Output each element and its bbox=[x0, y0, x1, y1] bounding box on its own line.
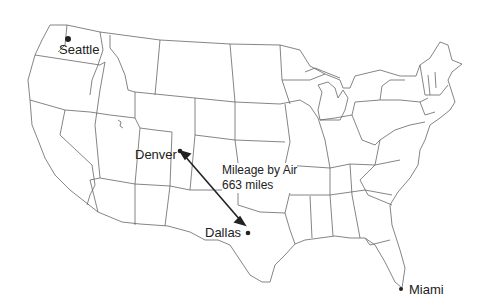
miami-marker bbox=[399, 287, 403, 291]
route-annotation: Mileage by Air 663 miles bbox=[222, 163, 297, 193]
city-label-dallas: Dallas bbox=[205, 226, 241, 239]
city-label-miami: Miami bbox=[409, 283, 444, 296]
denver-marker bbox=[178, 149, 183, 154]
route-label-title: Mileage by Air bbox=[222, 163, 297, 178]
city-label-seattle: Seattle bbox=[59, 43, 99, 56]
dallas-marker bbox=[246, 231, 251, 236]
route-label-distance: 663 miles bbox=[222, 178, 297, 193]
us-map: Seattle Denver Dallas Miami Mileage by A… bbox=[0, 0, 495, 298]
city-label-denver: Denver bbox=[135, 148, 177, 161]
